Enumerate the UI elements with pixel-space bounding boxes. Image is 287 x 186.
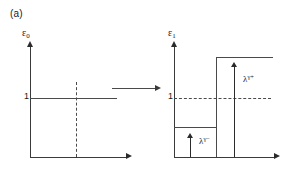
- left-constant-curve: [30, 98, 117, 99]
- right-plot: ε1 1 λγ− λγ+: [143, 0, 287, 186]
- upper-measure-shaft: [234, 67, 235, 157]
- step-upper-plateau: [216, 57, 273, 58]
- left-dashed-reference-line: [76, 82, 77, 157]
- right-x-axis-line: [174, 157, 274, 158]
- lower-measure-label: λγ−: [199, 136, 210, 146]
- left-y-axis-subscript: 0: [26, 32, 30, 40]
- upper-lambda-superscript: γ+: [247, 73, 254, 80]
- left-y-axis-line: [30, 47, 31, 157]
- step-riser: [216, 57, 217, 157]
- figure-container: (a) ε0 1 ε1 1: [0, 0, 287, 186]
- right-y-axis-subscript: 1: [172, 32, 176, 40]
- right-y-axis-line: [174, 47, 175, 157]
- left-y-axis-title: ε0: [22, 27, 30, 38]
- right-y-axis-title: ε1: [168, 27, 176, 38]
- left-x-axis-arrowhead: [126, 153, 132, 159]
- step-lower-plateau: [174, 127, 216, 128]
- left-y-tick-label: 1: [20, 91, 29, 101]
- lower-measure-shaft: [190, 138, 191, 157]
- upper-measure-label: λγ+: [243, 74, 254, 84]
- right-y-tick-label: 1: [164, 91, 173, 101]
- lower-lambda-superscript: γ−: [203, 135, 210, 142]
- left-x-axis-line: [30, 157, 126, 158]
- right-x-axis-arrowhead: [274, 153, 280, 159]
- right-unit-reference-line: [174, 98, 271, 99]
